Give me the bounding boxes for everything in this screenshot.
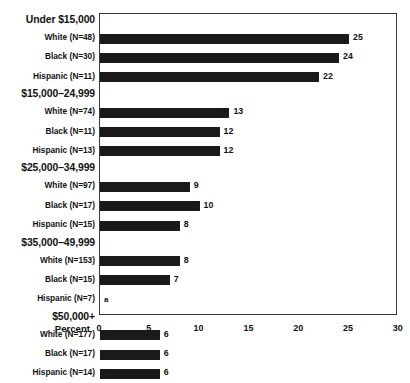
bar-row-label: Hispanic (N=13)	[0, 145, 99, 155]
bar-row: White (N=153)8	[0, 252, 410, 271]
group-header-row: Under $15,000	[0, 13, 410, 29]
group-label: Under $15,000	[0, 14, 99, 25]
bar-row-label: Black (N=15)	[0, 274, 99, 284]
bar-track: 12	[100, 123, 397, 142]
x-axis-title: Percent	[0, 323, 99, 334]
bar-track: 22	[100, 68, 397, 87]
group-label: $15,000–24,999	[0, 88, 99, 99]
bar-value-label: 7	[174, 274, 179, 284]
bar-row: Black (N=17)6	[0, 345, 410, 364]
bar-track: 13	[100, 103, 397, 122]
bar-row: White (N=97)9	[0, 177, 410, 196]
bar	[100, 221, 180, 231]
bar-track: 6	[100, 364, 397, 383]
bar-track: 25	[100, 29, 397, 48]
bar	[100, 53, 339, 63]
bar-row-label: Black (N=17)	[0, 200, 99, 210]
bar	[100, 182, 190, 192]
bar	[100, 350, 160, 360]
bar-suppressed-note: a	[104, 295, 108, 304]
bar-value-label: 8	[184, 255, 189, 265]
bar	[100, 256, 180, 266]
bar-row: Black (N=11)12	[0, 123, 410, 142]
bar-track: 9	[100, 177, 397, 196]
bar-track: 12	[100, 142, 397, 161]
bar-value-label: 8	[184, 219, 189, 229]
bar-row-label: Hispanic (N=14)	[0, 367, 99, 377]
x-axis-tick-label: 5	[146, 323, 151, 333]
bar-row: White (N=74)13	[0, 103, 410, 122]
bar-value-label: 6	[164, 348, 169, 358]
bar	[100, 369, 160, 379]
bar-value-label: 24	[343, 51, 353, 61]
bar-row: Hispanic (N=14)6	[0, 364, 410, 383]
x-axis: Percent 051015202530	[0, 320, 410, 340]
bar-row-label: Black (N=17)	[0, 348, 99, 358]
bar-row: Hispanic (N=15)8	[0, 216, 410, 235]
bar-row-label: White (N=74)	[0, 106, 99, 116]
bar-track: 8	[100, 216, 397, 235]
bar-row: Hispanic (N=7)a	[0, 290, 410, 309]
x-axis-tick-label: 30	[393, 323, 403, 333]
group-label: $35,000–49,999	[0, 237, 99, 248]
bar	[100, 201, 200, 211]
bar-row-label: Hispanic (N=11)	[0, 71, 99, 81]
bar-row-label: Black (N=11)	[0, 126, 99, 136]
bar-row-label: White (N=97)	[0, 180, 99, 190]
bar-row-label: White (N=153)	[0, 255, 99, 265]
bar	[100, 275, 170, 285]
bar-row-label: Black (N=30)	[0, 51, 99, 61]
bar-track: 7	[100, 271, 397, 290]
bar-track: 8	[100, 252, 397, 271]
bar-row: Black (N=15)7	[0, 271, 410, 290]
bar-track: a	[100, 290, 397, 309]
x-axis-tick-label: 25	[343, 323, 353, 333]
bar-track: 6	[100, 345, 397, 364]
bar-row-label: White (N=48)	[0, 32, 99, 42]
x-axis-tick-label: 0	[96, 323, 101, 333]
bar-value-label: 10	[204, 200, 214, 210]
group-header-row: $25,000–34,999	[0, 161, 410, 177]
bar	[100, 108, 229, 118]
bar	[100, 72, 319, 82]
bar-value-label: 12	[224, 145, 234, 155]
group-header-row: $35,000–49,999	[0, 236, 410, 252]
bar-value-label: 6	[164, 367, 169, 377]
bar-value-label: 9	[194, 180, 199, 190]
bar-row: Black (N=30)24	[0, 48, 410, 67]
bar-row-label: Hispanic (N=15)	[0, 219, 99, 229]
chart-title-cropped	[0, 0, 410, 9]
bar-row: Hispanic (N=13)12	[0, 142, 410, 161]
bar-track: 10	[100, 197, 397, 216]
bar-value-label: 13	[233, 106, 243, 116]
x-axis-tick-label: 20	[293, 323, 303, 333]
bar	[100, 127, 220, 137]
x-axis-tick-label: 15	[243, 323, 253, 333]
bar-row: Hispanic (N=11)22	[0, 68, 410, 87]
bar-value-label: 12	[224, 126, 234, 136]
group-label: $25,000–34,999	[0, 162, 99, 173]
bar-row: Black (N=17)10	[0, 197, 410, 216]
bar-value-label: 25	[353, 32, 363, 42]
bar	[100, 146, 220, 156]
bar	[100, 34, 349, 44]
group-header-row: $15,000–24,999	[0, 87, 410, 103]
bar-row-label: Hispanic (N=7)	[0, 293, 99, 303]
bar-value-label: 22	[323, 71, 333, 81]
x-axis-tick-label: 10	[194, 323, 204, 333]
bar-track: 24	[100, 48, 397, 67]
bar-row: White (N=48)25	[0, 29, 410, 48]
